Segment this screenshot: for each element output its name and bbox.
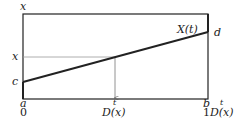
x-level-label: x <box>12 50 19 63</box>
d-right-label: D(x) <box>209 106 234 119</box>
d-label: d <box>214 26 221 39</box>
y-axis-label: x <box>20 0 27 13</box>
zero-label: 0 <box>20 106 27 119</box>
curve-label: X(t) <box>176 23 198 36</box>
one-label: 1 <box>203 106 210 119</box>
d-mid-label: D(x) <box>101 106 126 119</box>
diagram-canvas: x X(t) d x c a 0 t D(x) b 1 t D(x) <box>0 0 243 130</box>
c-label: c <box>12 75 18 88</box>
